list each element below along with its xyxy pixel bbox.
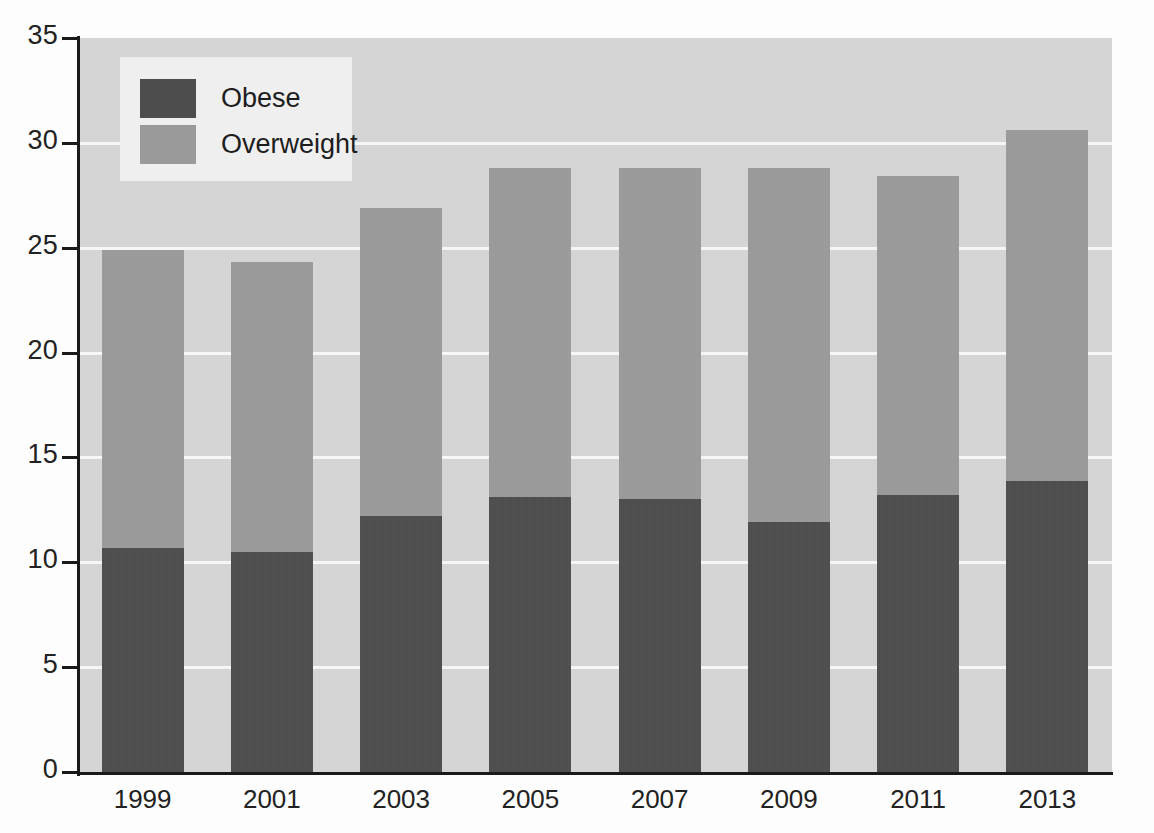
y-tick-mark: [62, 37, 78, 40]
bar-segment-overweight: [1006, 130, 1088, 480]
bar-segment-obese: [748, 522, 830, 772]
bar-segment-obese: [877, 495, 959, 772]
x-tick-label: 1999: [114, 784, 172, 815]
legend-swatch-overweight: [140, 125, 196, 164]
y-tick-mark: [62, 352, 78, 355]
y-tick-label: 35: [28, 20, 58, 51]
y-tick-mark: [62, 771, 78, 774]
bar-segment-obese: [489, 497, 571, 772]
bar-segment-obese: [619, 499, 701, 772]
bar-segment-obese: [102, 548, 184, 772]
bar-group: [489, 168, 571, 772]
y-tick-label: 10: [28, 544, 58, 575]
bar-segment-overweight: [877, 176, 959, 495]
y-tick-label: 25: [28, 230, 58, 261]
bar-group: [748, 168, 830, 772]
x-tick-label: 2001: [243, 784, 301, 815]
stacked-bar-chart-figure: 35302520151050 1999200120032005200720092…: [0, 0, 1154, 833]
x-axis-line: [77, 772, 1113, 775]
y-tick-mark: [62, 142, 78, 145]
chart-legend: Obese Overweight: [120, 57, 352, 181]
legend-label-obese: Obese: [221, 83, 301, 114]
y-tick-label: 5: [43, 649, 58, 680]
y-tick-label: 15: [28, 439, 58, 470]
legend-label-overweight: Overweight: [221, 129, 358, 160]
bar-segment-overweight: [619, 168, 701, 499]
bar-segment-overweight: [489, 168, 571, 497]
bar-segment-obese: [360, 516, 442, 772]
y-tick-label: 0: [43, 754, 58, 785]
bar-segment-obese: [1006, 481, 1088, 773]
legend-entry-overweight: Overweight: [140, 125, 358, 164]
y-tick-label: 30: [28, 125, 58, 156]
bar-group: [102, 250, 184, 772]
x-tick-label: 2005: [501, 784, 559, 815]
x-tick-label: 2009: [760, 784, 818, 815]
bar-group: [231, 262, 313, 772]
y-tick-mark: [62, 561, 78, 564]
bar-segment-overweight: [231, 262, 313, 551]
bar-group: [360, 208, 442, 772]
y-tick-mark: [62, 247, 78, 250]
y-tick-mark: [62, 666, 78, 669]
bar-segment-obese: [231, 552, 313, 772]
bar-group: [1006, 130, 1088, 772]
x-tick-label: 2007: [631, 784, 689, 815]
y-tick-mark: [62, 456, 78, 459]
bar-segment-overweight: [748, 168, 830, 522]
x-tick-label: 2003: [372, 784, 430, 815]
x-tick-label: 2013: [1018, 784, 1076, 815]
bar-group: [619, 168, 701, 772]
y-axis-line: [77, 36, 80, 776]
x-tick-label: 2011: [890, 784, 946, 815]
bar-segment-overweight: [360, 208, 442, 516]
y-tick-label: 20: [28, 335, 58, 366]
legend-swatch-obese: [140, 79, 196, 118]
legend-entry-obese: Obese: [140, 79, 301, 118]
bar-segment-overweight: [102, 250, 184, 548]
bar-group: [877, 176, 959, 772]
